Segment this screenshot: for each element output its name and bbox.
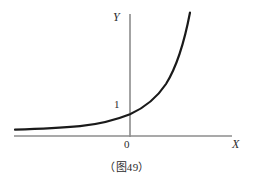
origin-label: 0 (124, 139, 130, 150)
y-axis-label: Y (113, 11, 120, 23)
figure-container: Y X 1 0 （图49） (0, 0, 254, 185)
exponential-curve (15, 13, 190, 130)
exponential-curve-plot (0, 0, 254, 185)
figure-caption: （图49） (0, 161, 254, 174)
x-axis-label: X (232, 138, 239, 150)
y-intercept-tick-label: 1 (114, 99, 120, 110)
